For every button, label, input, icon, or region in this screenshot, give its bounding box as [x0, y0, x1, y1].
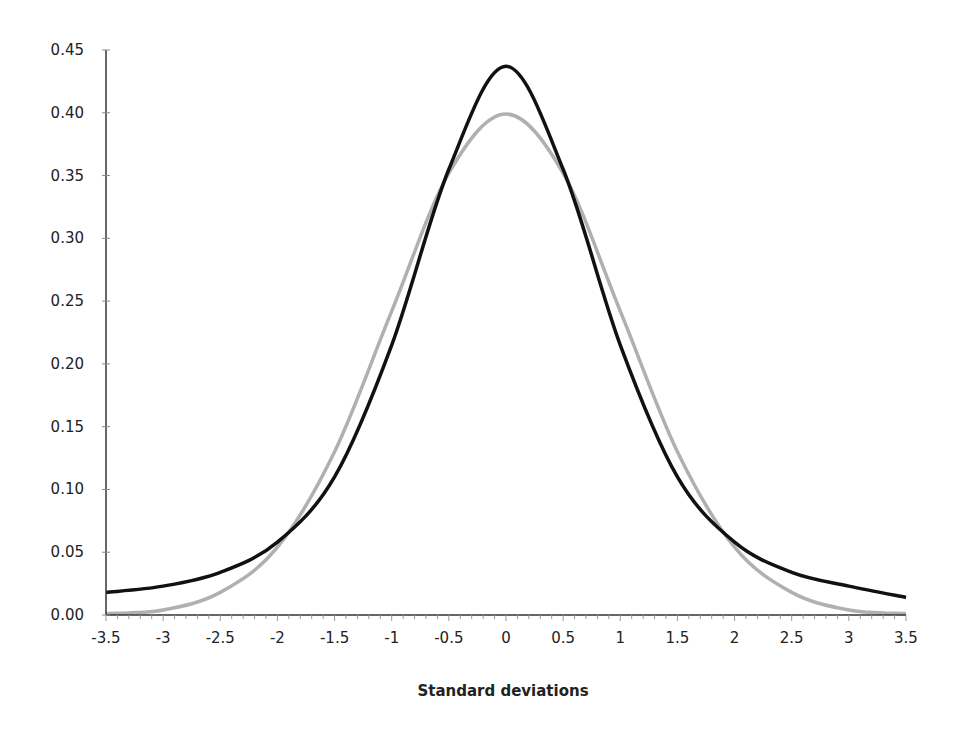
- x-tick-label: 2.5: [780, 629, 804, 647]
- x-tick-label: -2.5: [206, 629, 235, 647]
- y-tick-label: 0.25: [51, 292, 84, 310]
- x-tick-label: -3.5: [91, 629, 120, 647]
- x-tick-label: -1: [384, 629, 399, 647]
- fat-tail-curve: [106, 66, 906, 597]
- x-tick-label: 1: [616, 629, 626, 647]
- x-tick-label: 0.5: [551, 629, 575, 647]
- y-tick-label: 0.15: [51, 418, 84, 436]
- x-tick-label: 0: [501, 629, 511, 647]
- y-tick-label: 0.45: [51, 41, 84, 59]
- x-tick-label: 2: [730, 629, 740, 647]
- normal-curve: [106, 114, 906, 614]
- x-tick-label: -0.5: [434, 629, 463, 647]
- y-tick-label: 0.05: [51, 543, 84, 561]
- x-tick-label: -3: [156, 629, 171, 647]
- y-tick-label: 0.30: [51, 229, 84, 247]
- chart: 0.000.050.100.150.200.250.300.350.400.45…: [0, 0, 961, 731]
- y-tick-label: 0.40: [51, 104, 84, 122]
- x-tick-label: 3: [844, 629, 854, 647]
- y-tick-label: 0.20: [51, 355, 84, 373]
- y-tick-label: 0.10: [51, 480, 84, 498]
- x-tick-label: -1.5: [320, 629, 349, 647]
- x-tick-label: -2: [270, 629, 285, 647]
- x-axis-title: Standard deviations: [417, 682, 588, 700]
- x-tick-label: 3.5: [894, 629, 918, 647]
- y-tick-label: 0.35: [51, 167, 84, 185]
- y-tick-label: 0.00: [51, 606, 84, 624]
- x-tick-label: 1.5: [665, 629, 689, 647]
